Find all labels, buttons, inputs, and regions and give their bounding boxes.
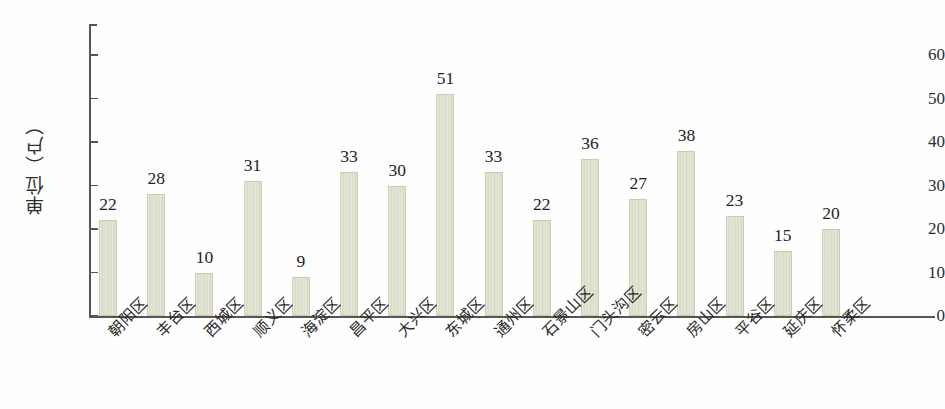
y-axis-tick [90, 315, 98, 316]
bar [388, 186, 406, 317]
bar-value-label: 36 [567, 135, 613, 153]
y-axis-tick-label: 50 [911, 90, 945, 107]
bar-chart-figure: 单位（户） 0102030405060 22281031933305133223… [0, 0, 945, 409]
y-axis-tick-label: 20 [911, 220, 945, 237]
y-axis-tick [90, 98, 98, 99]
bar-value-label: 27 [615, 175, 661, 193]
y-axis-tick [90, 141, 98, 142]
bar [340, 172, 358, 316]
bar [99, 220, 117, 316]
y-axis-tick [90, 185, 98, 186]
bar-value-label: 23 [712, 192, 758, 210]
y-axis-tick [90, 228, 98, 229]
bar-value-label: 33 [326, 148, 372, 166]
bar [822, 229, 840, 316]
bar [292, 277, 310, 316]
plot-area: 0102030405060 22281031933305133223627382… [0, 0, 945, 409]
bar [533, 220, 551, 316]
bar-value-label: 51 [422, 70, 468, 88]
y-axis-top-cap [89, 24, 97, 26]
bar [244, 181, 262, 316]
bar [147, 194, 165, 316]
bar-value-label: 22 [519, 196, 565, 214]
bar-value-label: 30 [374, 162, 420, 180]
bar-value-label: 38 [663, 127, 709, 145]
bar-value-label: 31 [230, 157, 276, 175]
bar [436, 94, 454, 316]
bar-value-label: 9 [278, 253, 324, 271]
bar-value-label: 33 [471, 148, 517, 166]
bar [677, 151, 695, 316]
y-axis-tick-label: 60 [911, 46, 945, 63]
y-axis-tick-label: 0 [911, 307, 945, 324]
y-axis-tick-label: 40 [911, 133, 945, 150]
bar [195, 273, 213, 317]
y-axis-tick [90, 54, 98, 55]
bar-value-label: 10 [181, 249, 227, 267]
bar-value-label: 28 [133, 170, 179, 188]
bar-value-label: 15 [760, 227, 806, 245]
y-axis-tick-label: 10 [911, 264, 945, 281]
bar-value-label: 22 [85, 196, 131, 214]
bar-value-label: 20 [808, 205, 854, 223]
y-axis-tick [90, 272, 98, 273]
y-axis-tick-label: 30 [911, 177, 945, 194]
bar [485, 172, 503, 316]
bar [726, 216, 744, 316]
